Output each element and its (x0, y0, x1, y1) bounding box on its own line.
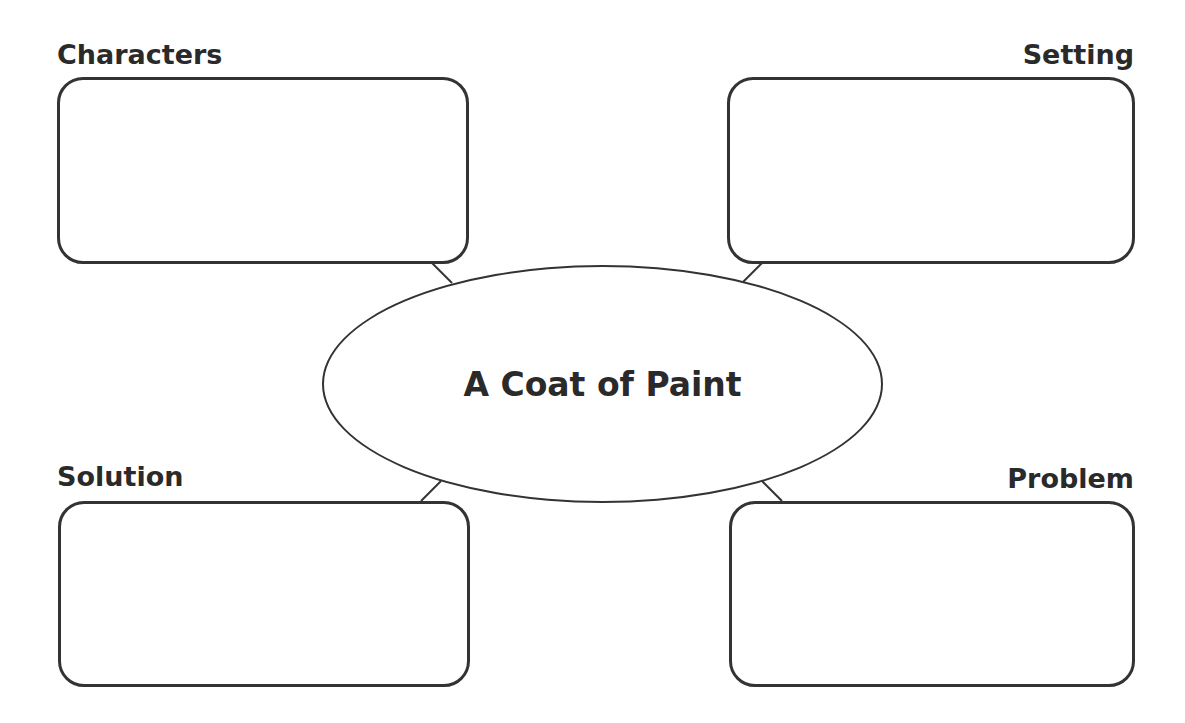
setting-label: Setting (1023, 41, 1134, 68)
connector-problem (762, 481, 782, 501)
center-ellipse: A Coat of Paint (322, 265, 883, 503)
characters-label: Characters (57, 41, 222, 68)
story-title: A Coat of Paint (463, 365, 741, 404)
connector-setting (742, 263, 762, 283)
characters-box[interactable] (57, 77, 469, 264)
connector-solution (421, 481, 441, 501)
solution-box[interactable] (58, 501, 470, 687)
problem-label: Problem (1007, 465, 1134, 492)
connector-characters (432, 263, 452, 283)
solution-label: Solution (57, 463, 183, 490)
setting-box[interactable] (727, 77, 1135, 264)
problem-box[interactable] (729, 501, 1135, 687)
